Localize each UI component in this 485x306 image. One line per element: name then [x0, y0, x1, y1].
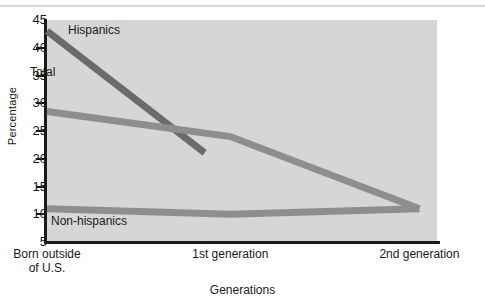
series-line-hispanics [47, 31, 205, 153]
series-label-non-hispanics: Non-hispanics [51, 214, 127, 228]
series-label-total: Total [30, 65, 55, 79]
series-label-hispanics: Hispanics [68, 23, 120, 37]
x-tick-label: 2nd generation [354, 248, 484, 262]
x-axis-title: Generations [0, 283, 485, 297]
x-tick-label: Born outside of U.S. [0, 248, 112, 276]
chart-screenshot: Percentage 45403530252015105 Hispanics T… [0, 0, 485, 306]
x-tick-label: 1st generation [165, 248, 295, 262]
series-line-total [47, 112, 419, 209]
